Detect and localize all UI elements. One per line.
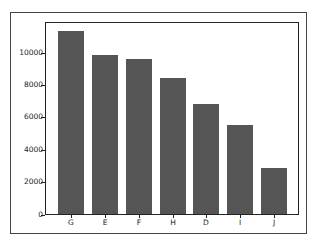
y-tick-label: 0 [38,211,43,219]
x-tick-label: F [129,218,149,227]
x-tick-label: J [264,218,284,227]
x-tick-label: E [95,218,115,227]
y-tick-label: 4000 [24,146,43,154]
y-tick-label: 6000 [24,113,43,121]
bar-f [126,59,152,215]
x-tick-label: G [61,218,81,227]
bar-d [193,104,219,215]
bar-g [58,31,84,215]
y-tick-label: 10000 [19,49,43,57]
bar-j [261,168,287,215]
x-tick-label: H [163,218,183,227]
x-tick-label: D [196,218,216,227]
y-tick-label: 8000 [24,81,43,89]
bar-e [92,55,118,215]
bar-i [227,125,253,214]
bar-h [160,78,186,214]
y-tick-label: 2000 [24,178,43,186]
x-tick-label: I [230,218,250,227]
